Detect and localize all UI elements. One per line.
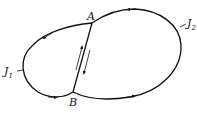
common-arc-ab (73, 23, 92, 92)
point-label-a: A (86, 10, 95, 23)
arrow-j2-top-icon (128, 9, 136, 10)
arrow-j1-bottom-icon (48, 97, 56, 98)
curve-label-j2: J2 (185, 17, 196, 32)
curve-label-j1: J1 (2, 65, 13, 80)
chord-arrow-down-icon (84, 50, 90, 73)
diagram-canvas: A B J1 J2 (0, 0, 197, 121)
point-label-b: B (68, 96, 77, 109)
chord-arrow-up-icon (76, 47, 82, 70)
j2-pointer-icon (180, 24, 186, 27)
j1-pointer-icon (17, 70, 23, 71)
